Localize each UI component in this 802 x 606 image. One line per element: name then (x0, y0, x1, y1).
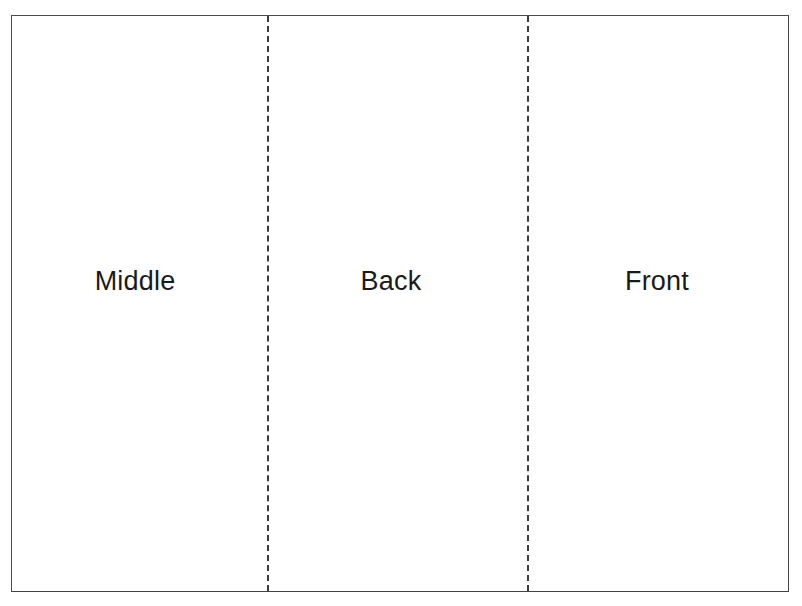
diagram-canvas: Middle Back Front (0, 0, 802, 606)
panel-label-back: Back (269, 263, 513, 299)
panel-middle[interactable] (12, 16, 267, 591)
panel-label-middle: Middle (12, 263, 258, 299)
panel-label-front: Front (529, 263, 785, 299)
panel-front[interactable] (529, 16, 788, 591)
fold-line-middle-back (267, 16, 269, 591)
fold-line-back-front (527, 16, 529, 591)
panel-back[interactable] (269, 16, 527, 591)
